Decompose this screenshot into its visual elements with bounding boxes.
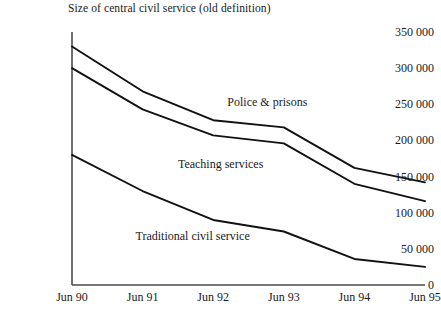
axis-lines (72, 32, 425, 285)
series-line (72, 46, 425, 182)
series-lines (72, 46, 425, 266)
